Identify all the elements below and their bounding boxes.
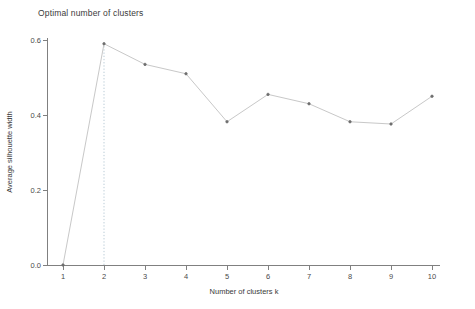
chart-canvas: Optimal number of clusters 12345678910 0… bbox=[0, 0, 475, 309]
data-point-k8 bbox=[349, 121, 352, 124]
data-point-k7 bbox=[308, 103, 311, 106]
data-point-k4 bbox=[185, 73, 188, 76]
y-tick-0.2 bbox=[43, 190, 47, 191]
data-point-k6 bbox=[267, 93, 270, 96]
series-plot-area bbox=[0, 0, 475, 309]
silhouette-markers bbox=[62, 43, 434, 267]
y-tick-0.4 bbox=[43, 115, 47, 116]
data-point-k5 bbox=[226, 121, 229, 124]
silhouette-series bbox=[63, 44, 432, 265]
data-point-k1 bbox=[62, 264, 65, 267]
y-tick-0.0 bbox=[43, 265, 47, 266]
data-point-k2 bbox=[103, 43, 106, 46]
silhouette-line bbox=[63, 44, 432, 265]
y-tick-0.6 bbox=[43, 40, 47, 41]
data-point-k10 bbox=[431, 95, 434, 98]
data-point-k9 bbox=[390, 123, 393, 126]
data-point-k3 bbox=[144, 63, 147, 66]
